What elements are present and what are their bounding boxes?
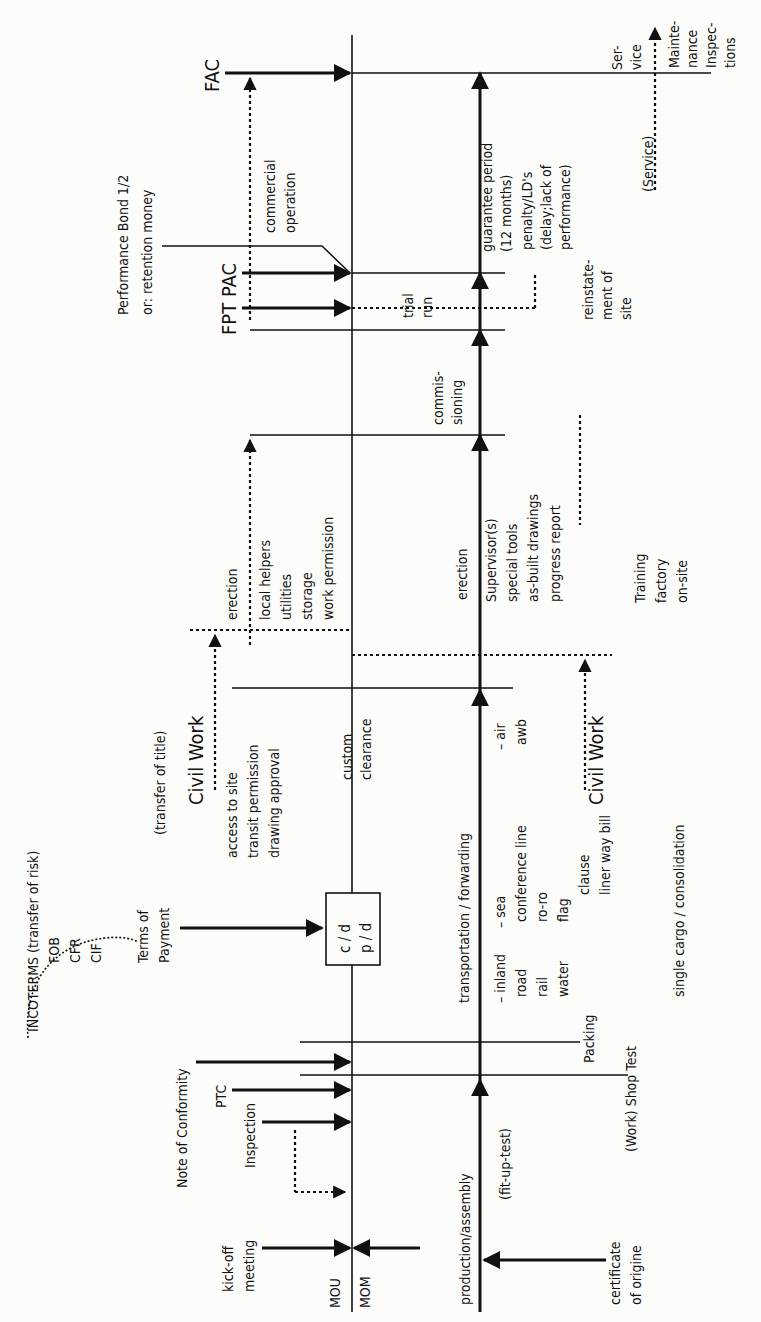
svg-text:(delay;lack of: (delay;lack of: [538, 164, 554, 250]
svg-text:local helpers: local helpers: [257, 540, 273, 620]
svg-text:erection: erection: [224, 569, 240, 620]
svg-text:p / d: p / d: [357, 923, 375, 953]
svg-text:flag: flag: [555, 898, 571, 922]
svg-text:transit permission: transit permission: [245, 744, 261, 858]
svg-text:as-built drawings: as-built drawings: [525, 494, 541, 602]
svg-text:c / d: c / d: [336, 924, 354, 953]
input-arrows: [180, 73, 606, 1260]
svg-text:(transfer of title): (transfer of title): [152, 731, 168, 835]
svg-text:ment of: ment of: [599, 270, 615, 320]
svg-text:of origine: of origine: [628, 1245, 644, 1305]
svg-text:INCOTERMS (transfer of risk): INCOTERMS (transfer of risk): [25, 851, 41, 1032]
svg-text:Inspection: Inspection: [242, 1103, 258, 1168]
svg-text:FOB: FOB: [46, 937, 62, 963]
svg-text:clearance: clearance: [358, 718, 374, 780]
svg-text:– sea: – sea: [492, 896, 508, 928]
svg-text:Supervisor(s): Supervisor(s): [483, 518, 499, 602]
svg-text:Training: Training: [632, 554, 648, 605]
svg-text:MOU: MOU: [327, 1278, 343, 1308]
svg-text:– inland: – inland: [492, 954, 508, 1003]
svg-text:Ser-: Ser-: [609, 45, 625, 70]
svg-text:vice: vice: [628, 44, 644, 70]
svg-text:Note of Conformity: Note of Conformity: [174, 1068, 190, 1188]
svg-text:special tools: special tools: [504, 524, 520, 602]
svg-text:Civil Work: Civil Work: [584, 715, 608, 805]
svg-text:ro-ro: ro-ro: [534, 892, 550, 922]
svg-text:trial: trial: [400, 293, 416, 318]
svg-text:storage: storage: [299, 572, 315, 620]
svg-text:single cargo / consolidation: single cargo / consolidation: [671, 824, 687, 997]
svg-text:commis-: commis-: [430, 371, 446, 425]
svg-text:penalty/LD's: penalty/LD's: [519, 172, 535, 250]
svg-text:guarantee period: guarantee period: [479, 143, 495, 252]
svg-text:Mainte-: Mainte-: [666, 21, 682, 68]
svg-text:Inspec-: Inspec-: [703, 23, 719, 68]
svg-text:PTC: PTC: [213, 1085, 229, 1108]
svg-text:access to site: access to site: [224, 772, 240, 858]
svg-text:certificate: certificate: [607, 1241, 623, 1305]
svg-text:drawing approval: drawing approval: [266, 748, 282, 858]
svg-text:custom: custom: [339, 734, 355, 780]
svg-text:erection: erection: [454, 549, 470, 600]
svg-text:road: road: [513, 969, 529, 997]
labels: FAC FPT PAC Performance Bond 1/2 or: ret…: [25, 21, 738, 1308]
svg-text:site: site: [618, 297, 634, 320]
svg-text:progress report: progress report: [547, 505, 563, 602]
svg-text:operation: operation: [282, 173, 298, 233]
svg-text:CIF: CIF: [88, 943, 104, 963]
svg-text:conference line: conference line: [513, 825, 529, 922]
svg-text:production/assembly: production/assembly: [457, 1173, 473, 1305]
svg-text:work permission: work permission: [320, 517, 336, 620]
svg-text:transportation / forwarding: transportation / forwarding: [456, 833, 472, 1003]
svg-text:– air: – air: [492, 722, 508, 750]
svg-text:(fit-up-test): (fit-up-test): [497, 1128, 513, 1200]
svg-text:FAC: FAC: [200, 59, 224, 92]
svg-text:Terms of: Terms of: [135, 909, 151, 964]
svg-text:(12 months): (12 months): [498, 175, 514, 252]
project-timeline-diagram: FAC FPT PAC Performance Bond 1/2 or: ret…: [0, 0, 761, 1322]
svg-text:CFR: CFR: [67, 938, 83, 963]
svg-text:on-site: on-site: [674, 560, 690, 603]
svg-text:kick-off: kick-off: [220, 1245, 236, 1292]
svg-text:Civil Work: Civil Work: [184, 715, 208, 805]
svg-text:reinstate-: reinstate-: [580, 259, 596, 320]
svg-text:Payment: Payment: [156, 908, 172, 963]
svg-text:commercial: commercial: [262, 160, 278, 233]
svg-text:MOM: MOM: [357, 1276, 373, 1308]
performance-bond-line: [162, 246, 350, 273]
svg-text:(Work) Shop Test: (Work) Shop Test: [623, 1046, 639, 1152]
svg-text:awb: awb: [513, 719, 529, 745]
svg-text:performance): performance): [557, 164, 573, 250]
svg-text:Packing: Packing: [581, 1015, 597, 1063]
svg-text:utilities: utilities: [278, 574, 294, 620]
svg-text:FPT PAC: FPT PAC: [217, 263, 241, 335]
svg-text:or: retention money: or: retention money: [139, 189, 155, 315]
svg-text:liner way bill: liner way bill: [597, 815, 613, 895]
svg-text:clause: clause: [576, 854, 592, 895]
svg-text:nance: nance: [684, 29, 700, 68]
svg-text:tions: tions: [722, 37, 738, 68]
svg-text:meeting: meeting: [241, 1240, 257, 1292]
svg-text:(Service): (Service): [640, 136, 656, 192]
svg-text:factory: factory: [653, 558, 669, 603]
svg-text:Performance Bond 1/2: Performance Bond 1/2: [115, 175, 131, 315]
svg-text:rail: rail: [534, 977, 550, 997]
svg-text:water: water: [555, 960, 571, 997]
svg-text:sioning: sioning: [449, 380, 465, 425]
svg-text:run: run: [419, 297, 435, 318]
